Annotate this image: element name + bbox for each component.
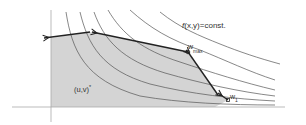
- w-1-label: w1: [229, 93, 238, 103]
- level-curve-label: f(x,y)=const.: [182, 21, 226, 30]
- diagram-svg: f(x,y)=const. (u,v)* wmax w1: [0, 0, 306, 125]
- diagram-canvas: f(x,y)=const. (u,v)* wmax w1: [0, 0, 306, 125]
